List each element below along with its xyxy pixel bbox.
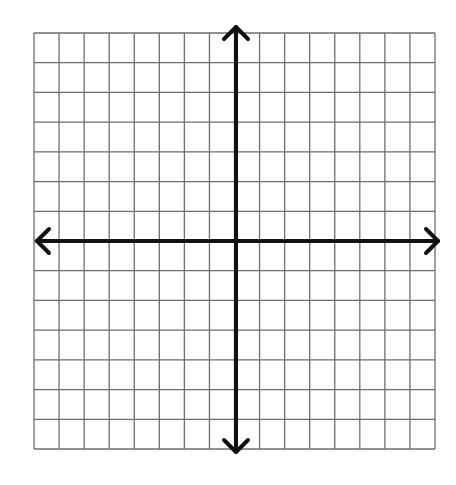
coordinate-plane xyxy=(0,0,456,485)
axes xyxy=(37,27,438,452)
